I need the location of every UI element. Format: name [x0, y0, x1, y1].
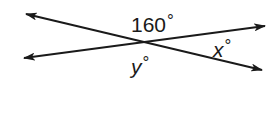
angle-label-160: 160° — [131, 12, 174, 35]
degree-symbol: ° — [167, 11, 174, 30]
angle-variable-x: x — [213, 38, 224, 61]
angle-value: 160 — [131, 13, 166, 36]
degree-symbol: ° — [225, 36, 232, 55]
angle-label-x: x° — [213, 37, 231, 60]
degree-symbol: ° — [143, 53, 150, 72]
angle-label-y: y° — [131, 54, 149, 77]
angle-variable-y: y — [131, 55, 142, 78]
